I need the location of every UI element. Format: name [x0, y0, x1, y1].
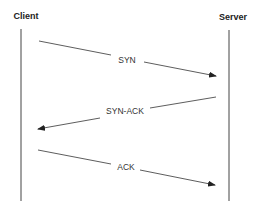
tcp-handshake-diagram: Client Server SYN SYN-ACK ACK [0, 0, 254, 209]
message-syn-ack: SYN-ACK [38, 97, 216, 129]
syn-arrow-segment-1 [39, 41, 111, 55]
actor-server-label: Server [219, 12, 248, 22]
syn-ack-arrow-segment-1 [150, 97, 216, 108]
ack-arrow-segment-1 [38, 150, 111, 164]
actor-client-label: Client [13, 11, 38, 21]
syn-label: SYN [118, 55, 135, 65]
syn-ack-arrow-segment-2 [38, 118, 100, 129]
syn-ack-label: SYN-ACK [106, 106, 144, 116]
ack-label: ACK [117, 162, 135, 172]
syn-arrow-segment-2 [144, 62, 216, 76]
message-ack: ACK [38, 150, 215, 185]
message-syn: SYN [39, 41, 216, 76]
ack-arrow-segment-2 [140, 170, 215, 185]
